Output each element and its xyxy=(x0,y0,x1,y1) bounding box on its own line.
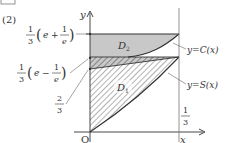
svg-text:3: 3 xyxy=(57,106,62,115)
svg-text:e: e xyxy=(62,37,67,46)
svg-text:1: 1 xyxy=(19,63,24,72)
svg-text:1: 1 xyxy=(125,87,129,94)
box-fragment xyxy=(1,0,15,4)
svg-text:3: 3 xyxy=(28,37,33,46)
diagram-canvas: (2) y x O 1 3 ( e + 1 e ) 1 3 ( e − 1 e … xyxy=(0,0,229,143)
x-axis-label: x xyxy=(180,134,186,143)
svg-text:2: 2 xyxy=(126,45,130,52)
svg-text:1: 1 xyxy=(62,25,67,34)
svg-text:(: ( xyxy=(27,65,32,81)
svg-text:3: 3 xyxy=(183,118,188,127)
svg-text:e: e xyxy=(34,68,39,78)
tick-dot-mid xyxy=(89,57,91,59)
svg-text:−: − xyxy=(42,68,50,78)
svg-text:3: 3 xyxy=(19,75,24,84)
svg-text:2: 2 xyxy=(57,94,62,103)
curve-s-label: y=S(x) xyxy=(186,80,218,90)
curve-c-label: y=C(x) xyxy=(186,45,219,55)
leader-low xyxy=(66,70,88,104)
region-d1 xyxy=(90,57,179,132)
problem-label: (2) xyxy=(2,14,16,25)
svg-text:): ) xyxy=(69,27,74,43)
region-d1-label: D 1 xyxy=(114,80,132,94)
y-tick-label-mid: 1 3 ( e − 1 e ) xyxy=(17,63,66,84)
y-tick-label-low: 2 3 xyxy=(55,94,64,115)
tick-dot-top xyxy=(89,33,91,35)
y-axis-label: y xyxy=(79,9,86,20)
leader-c xyxy=(173,43,186,49)
svg-text:1: 1 xyxy=(28,25,33,34)
svg-text:1: 1 xyxy=(183,106,188,115)
origin-label: O xyxy=(81,134,89,143)
svg-text:D: D xyxy=(116,82,125,93)
leader-mid xyxy=(70,59,88,73)
svg-text:): ) xyxy=(61,65,66,81)
svg-text:e: e xyxy=(54,75,59,84)
svg-text:(: ( xyxy=(36,27,41,43)
y-tick-label-top: 1 3 ( e + 1 e ) xyxy=(26,25,74,46)
x-tick-label: 1 3 xyxy=(181,106,190,127)
svg-text:e: e xyxy=(43,30,48,40)
svg-text:+: + xyxy=(51,30,59,40)
leader-s xyxy=(168,73,186,84)
svg-text:D: D xyxy=(117,40,126,51)
svg-text:1: 1 xyxy=(54,63,59,72)
tick-dot-low xyxy=(89,68,91,70)
